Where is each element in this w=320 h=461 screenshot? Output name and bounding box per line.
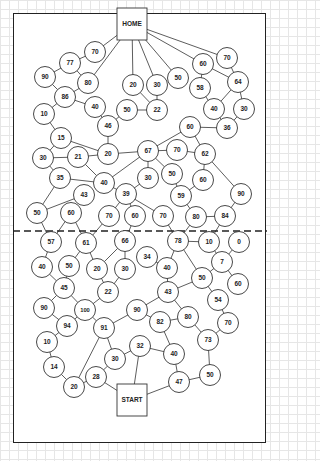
number-node[interactable]: 10 bbox=[37, 332, 58, 353]
number-node[interactable]: 64 bbox=[228, 72, 249, 93]
number-node[interactable]: 45 bbox=[54, 278, 75, 299]
number-node[interactable]: 35 bbox=[50, 168, 71, 189]
node-value: 30 bbox=[153, 81, 161, 88]
number-node[interactable]: 36 bbox=[217, 118, 238, 139]
number-node[interactable]: 80 bbox=[186, 207, 207, 228]
number-node[interactable]: 40 bbox=[157, 258, 178, 279]
number-node[interactable]: 20 bbox=[123, 75, 144, 96]
number-node[interactable]: 86 bbox=[55, 87, 76, 108]
number-node[interactable]: 60 bbox=[61, 203, 82, 224]
number-node[interactable]: 30 bbox=[234, 99, 255, 120]
number-node[interactable]: 60 bbox=[125, 206, 146, 227]
number-node[interactable]: 50 bbox=[192, 268, 213, 289]
number-node[interactable]: 50 bbox=[117, 100, 138, 121]
number-node[interactable]: 40 bbox=[94, 173, 115, 194]
number-node[interactable]: 20 bbox=[87, 259, 108, 280]
node-value: 70 bbox=[159, 212, 167, 219]
number-node[interactable]: 77 bbox=[60, 53, 81, 74]
node-value: 60 bbox=[186, 123, 194, 130]
number-node[interactable]: 61 bbox=[76, 233, 97, 254]
number-node[interactable]: 54 bbox=[208, 290, 229, 311]
number-node[interactable]: 22 bbox=[98, 282, 119, 303]
node-value: 30 bbox=[111, 355, 119, 362]
number-node[interactable]: 43 bbox=[74, 185, 95, 206]
number-node[interactable]: 66 bbox=[115, 231, 136, 252]
number-node[interactable]: 90 bbox=[34, 298, 55, 319]
number-node[interactable]: 50 bbox=[162, 164, 183, 185]
number-node[interactable]: 50 bbox=[59, 256, 80, 277]
number-node[interactable]: 80 bbox=[78, 73, 99, 94]
number-node[interactable]: 70 bbox=[217, 48, 238, 69]
number-node[interactable]: 57 bbox=[41, 232, 62, 253]
node-value: 78 bbox=[174, 237, 182, 244]
home-box[interactable]: HOME bbox=[117, 8, 147, 40]
node-value: 77 bbox=[66, 59, 74, 66]
number-node[interactable]: 58 bbox=[190, 78, 211, 99]
number-node[interactable]: 30 bbox=[105, 349, 126, 370]
number-node[interactable]: 50 bbox=[27, 203, 48, 224]
number-node[interactable]: 30 bbox=[138, 168, 159, 189]
number-node[interactable]: 14 bbox=[44, 357, 65, 378]
number-node[interactable]: 34 bbox=[137, 247, 158, 268]
number-node[interactable]: 70 bbox=[85, 42, 106, 63]
node-value: 50 bbox=[123, 106, 131, 113]
node-value: 47 bbox=[175, 378, 183, 385]
number-node[interactable]: 62 bbox=[195, 144, 216, 165]
node-value: 40 bbox=[163, 264, 171, 271]
number-node[interactable]: 40 bbox=[85, 97, 106, 118]
number-node[interactable]: 40 bbox=[204, 99, 225, 120]
node-value: 39 bbox=[122, 190, 130, 197]
number-node[interactable]: 80 bbox=[178, 307, 199, 328]
number-node[interactable]: 67 bbox=[138, 141, 159, 162]
node-value: 60 bbox=[131, 212, 139, 219]
number-node[interactable]: 28 bbox=[86, 367, 107, 388]
number-node[interactable]: 20 bbox=[98, 144, 119, 165]
node-value: 90 bbox=[40, 304, 48, 311]
number-node[interactable]: 90 bbox=[231, 184, 252, 205]
number-node[interactable]: 70 bbox=[99, 206, 120, 227]
number-node[interactable]: 47 bbox=[169, 372, 190, 393]
number-node[interactable]: 70 bbox=[218, 313, 239, 334]
number-node[interactable]: 21 bbox=[68, 147, 89, 168]
number-node[interactable]: 30 bbox=[115, 259, 136, 280]
number-node[interactable]: 82 bbox=[150, 312, 171, 333]
number-node[interactable]: 43 bbox=[158, 282, 179, 303]
number-node[interactable]: 10 bbox=[199, 232, 220, 253]
number-node[interactable]: 90 bbox=[127, 300, 148, 321]
number-node[interactable]: 30 bbox=[33, 148, 54, 169]
node-value: 28 bbox=[92, 373, 100, 380]
number-node[interactable]: 70 bbox=[167, 140, 188, 161]
home-label: HOME bbox=[122, 20, 142, 27]
number-node[interactable]: 30 bbox=[147, 75, 168, 96]
number-node[interactable]: 60 bbox=[193, 170, 214, 191]
node-value: 20 bbox=[93, 265, 101, 272]
number-node[interactable]: 73 bbox=[198, 330, 219, 351]
node-value: 60 bbox=[234, 280, 242, 287]
number-node[interactable]: 60 bbox=[193, 54, 214, 75]
number-node[interactable]: 0 bbox=[229, 232, 250, 253]
number-node[interactable]: 70 bbox=[153, 206, 174, 227]
number-node[interactable]: 78 bbox=[168, 231, 189, 252]
number-node[interactable]: 40 bbox=[164, 344, 185, 365]
number-node[interactable]: 39 bbox=[116, 184, 137, 205]
number-node[interactable]: 20 bbox=[64, 377, 85, 398]
number-node[interactable]: 46 bbox=[98, 116, 119, 137]
number-node[interactable]: 90 bbox=[35, 67, 56, 88]
start-box[interactable]: START bbox=[117, 384, 147, 416]
number-node[interactable]: 40 bbox=[32, 257, 53, 278]
number-node[interactable]: 32 bbox=[130, 336, 151, 357]
number-node[interactable]: 50 bbox=[200, 365, 221, 386]
number-node[interactable]: 15 bbox=[51, 128, 72, 149]
number-node[interactable]: 60 bbox=[228, 274, 249, 295]
number-node[interactable]: 59 bbox=[171, 186, 192, 207]
number-node[interactable]: 94 bbox=[57, 316, 78, 337]
number-node[interactable]: 84 bbox=[215, 206, 236, 227]
number-node[interactable]: 60 bbox=[180, 117, 201, 138]
number-node[interactable]: 100 bbox=[75, 300, 96, 321]
number-node[interactable]: 91 bbox=[94, 318, 115, 339]
number-node[interactable]: 7 bbox=[212, 252, 233, 273]
number-node[interactable]: 50 bbox=[168, 68, 189, 89]
number-node[interactable]: 10 bbox=[34, 104, 55, 125]
number-node[interactable]: 22 bbox=[147, 100, 168, 121]
node-value: 60 bbox=[67, 209, 75, 216]
